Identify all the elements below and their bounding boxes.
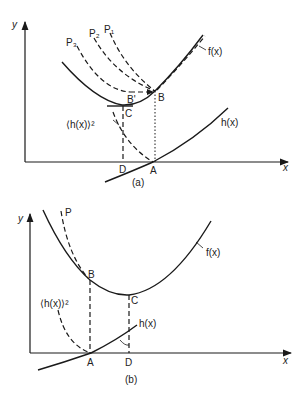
label-p-b: P <box>65 207 72 218</box>
label-d-b: D <box>125 357 132 368</box>
angle-arc-b <box>120 340 129 345</box>
diagram-canvas: y x P₃ P₂ P₁ f(x) B' B C ⟨h(x)⟩² h(x) D … <box>0 0 306 396</box>
curve-h2-a <box>113 112 153 162</box>
path-p-b <box>61 211 88 278</box>
f-label-tick-a <box>199 46 206 50</box>
label-d-a: D <box>119 164 126 175</box>
label-p3-a: P₃ <box>66 37 77 48</box>
label-a-a: A <box>150 165 157 176</box>
curve-h2-b <box>58 310 91 353</box>
curve-f-b <box>43 210 211 295</box>
label-h-a: h(x) <box>221 117 238 128</box>
caption-b: (b) <box>125 374 137 385</box>
label-f-b: f(x) <box>206 247 220 258</box>
f-label-tick-b <box>196 242 203 248</box>
panel-b: y x P B C ⟨h(x)⟩² h(x) f(x) A D (b) <box>17 207 291 385</box>
label-c-b: C <box>131 295 138 306</box>
panel-a: y x P₃ P₂ P₁ f(x) B' B C ⟨h(x)⟩² h(x) D … <box>11 19 289 188</box>
label-h2-a: ⟨h(x)⟩² <box>66 119 95 130</box>
y-label-b: y <box>17 213 24 224</box>
caption-a: (a) <box>132 177 144 188</box>
label-b-prime-a: B' <box>127 94 136 105</box>
label-b-a: B <box>158 92 165 103</box>
x-label-a: x <box>282 162 289 173</box>
label-f-a: f(x) <box>208 46 222 57</box>
path-p2-a <box>94 38 155 91</box>
x-label-b: x <box>282 355 289 366</box>
label-c-a: C <box>125 108 132 119</box>
label-b-b: B <box>88 269 95 280</box>
label-p2-a: P₂ <box>89 28 100 39</box>
y-label-a: y <box>11 19 18 30</box>
label-a-b: A <box>87 357 94 368</box>
label-p1-a: P₁ <box>104 24 115 35</box>
label-h2-b: ⟨h(x)⟩² <box>40 298 69 309</box>
path-p1-a <box>110 33 155 91</box>
label-h-b: h(x) <box>139 318 156 329</box>
